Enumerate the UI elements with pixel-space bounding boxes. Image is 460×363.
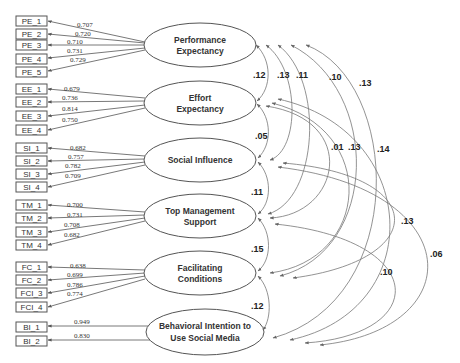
indicator-label: FCI_3	[21, 289, 43, 298]
loading-value: 0.700	[67, 201, 83, 209]
indicator-fci-4: FCI_4	[16, 302, 47, 312]
construct-performance-expectancy: PE_1 PE_2 PE_3 PE_4 PE_5 0.707 0.720 0.7…	[16, 16, 256, 77]
loading-value: 0.682	[70, 144, 86, 152]
indicator-label: EE_3	[22, 112, 42, 121]
indicator-fc-1: FC_1	[16, 262, 47, 272]
covariance-arcs	[256, 45, 428, 345]
indicator-label: BI_1	[23, 323, 40, 332]
indicator-pe-5: PE_5	[16, 67, 47, 77]
construct-behavioral-intention: BI_1 BI_2 0.949 0.830 Behavioral Intenti…	[16, 309, 264, 355]
cov-label-tm-fc: .15	[251, 244, 264, 254]
indicator-bi-1: BI_1	[16, 322, 47, 332]
construct-social-influence: SI_1 SI_2 SI_3 SI_4 0.682 0.757 0.782 0.…	[16, 138, 256, 192]
cov-label-si-fc: .13	[401, 216, 414, 226]
latent-ellipse	[146, 309, 264, 355]
latent-label-line2: Expectancy	[176, 46, 224, 56]
indicator-ee-2: EE_2	[16, 97, 47, 107]
cov-pe-fc	[280, 45, 356, 276]
cov-label-pe-tm: .11	[296, 70, 308, 80]
loading-value: 0.782	[65, 162, 81, 170]
indicator-label: TM_2	[21, 214, 42, 223]
indicator-pe-1: PE_1	[16, 16, 47, 26]
indicator-ee-4: EE_4	[16, 125, 47, 135]
indicator-label: PE_2	[22, 30, 42, 39]
indicator-label: PE_3	[22, 41, 42, 50]
indicator-label: TM_1	[21, 201, 42, 210]
indicator-si-3: SI_3	[16, 169, 47, 179]
indicator-label: SI_3	[23, 170, 40, 179]
indicator-label: EE_4	[22, 126, 42, 135]
indicator-pe-4: PE_4	[16, 54, 47, 64]
loading-value: 0.750	[62, 116, 78, 124]
indicator-label: PE_1	[22, 17, 42, 26]
indicator-fc-2: FC_2	[16, 275, 47, 285]
indicator-pe-3: PE_3	[16, 40, 47, 50]
cov-pe-bi	[273, 45, 376, 338]
loading-value: 0.699	[67, 271, 83, 279]
covariance-labels: .12 .13 .11 .10 .13 .05 .01 .13 .14 .11 …	[251, 70, 443, 311]
latent-label-line1: Behavioral Intention to	[159, 321, 251, 331]
loading-value: 0.710	[67, 38, 83, 46]
loading-value: 0.731	[67, 47, 83, 55]
cov-label-pe-si: .13	[277, 70, 290, 80]
loading-value: 0.679	[64, 85, 80, 93]
cov-ee-tm	[266, 106, 330, 218]
construct-facilitating-conditions: FC_1 FC_2 FCI_3 FCI_4 0.638 0.699 0.786 …	[16, 251, 256, 312]
latent-ellipse	[144, 194, 256, 238]
construct-top-management-support: TM_1 TM_2 TM_3 TM_4 0.700 0.731 0.708 0.…	[16, 194, 256, 250]
latent-label-line1: Social Influence	[168, 155, 233, 165]
loading-value: 0.786	[67, 281, 83, 289]
indicator-label: PE_5	[22, 68, 42, 77]
loading-value: 0.707	[77, 21, 93, 29]
indicator-label: TM_3	[21, 228, 42, 237]
latent-label-line1: Performance	[174, 35, 226, 45]
cov-label-pe-ee: .12	[253, 70, 266, 80]
cov-tm-bi	[275, 224, 395, 343]
cov-label-tm-bi: .10	[380, 267, 393, 277]
indicator-label: BI_2	[23, 337, 40, 346]
indicator-label: SI_1	[23, 144, 40, 153]
indicator-label: FCI_4	[21, 303, 43, 312]
loading-value: 0.709	[65, 172, 81, 180]
loading-value: 0.949	[74, 318, 90, 326]
cov-label-ee-bi: .14	[377, 144, 390, 154]
indicator-tm-1: TM_1	[16, 200, 47, 210]
cov-si-bi	[278, 167, 428, 345]
cov-label-si-tm: .11	[251, 187, 263, 197]
construct-effort-expectancy: EE_1 EE_2 EE_3 EE_4 0.679 0.736 0.814 0.…	[16, 81, 256, 135]
latent-label-line1: Effort	[189, 93, 212, 103]
loading-value: 0.814	[62, 105, 78, 113]
latent-ellipse	[144, 81, 256, 125]
indicator-tm-2: TM_2	[16, 213, 47, 223]
latent-label-line2: Expectancy	[176, 104, 224, 114]
cov-label-ee-fc: .13	[348, 142, 361, 152]
loading-value: 0.736	[62, 94, 78, 102]
latent-label-line1: Facilitating	[178, 263, 223, 273]
indicator-si-1: SI_1	[16, 143, 47, 153]
loading-value: 0.682	[64, 231, 80, 239]
indicator-tm-3: TM_3	[16, 227, 47, 237]
indicator-label: FC_2	[22, 276, 42, 285]
indicator-label: TM_4	[21, 241, 42, 250]
indicator-label: EE_2	[22, 98, 42, 107]
indicator-tm-4: TM_4	[16, 240, 47, 250]
cov-label-fc-bi: .12	[251, 301, 264, 311]
indicator-si-2: SI_2	[16, 156, 47, 166]
indicator-bi-2: BI_2	[16, 336, 47, 346]
loading-value: 0.729	[70, 56, 86, 64]
indicator-label: FC_1	[22, 263, 42, 272]
loading-value: 0.638	[70, 262, 86, 270]
cov-pe-si	[266, 45, 292, 160]
indicator-fci-3: FCI_3	[16, 288, 47, 298]
indicator-ee-1: EE_1	[16, 84, 47, 94]
indicator-si-4: SI_4	[16, 182, 47, 192]
loading-value: 0.708	[64, 221, 80, 229]
loading-value: 0.731	[67, 211, 83, 219]
indicator-label: EE_1	[22, 85, 42, 94]
cov-label-pe-bi: .13	[359, 78, 372, 88]
indicator-label: SI_2	[23, 157, 40, 166]
loading-value: 0.720	[75, 30, 91, 38]
cov-si-fc	[283, 163, 395, 278]
indicator-label: PE_4	[22, 55, 42, 64]
latent-label-line2: Use Social Media	[170, 333, 240, 343]
